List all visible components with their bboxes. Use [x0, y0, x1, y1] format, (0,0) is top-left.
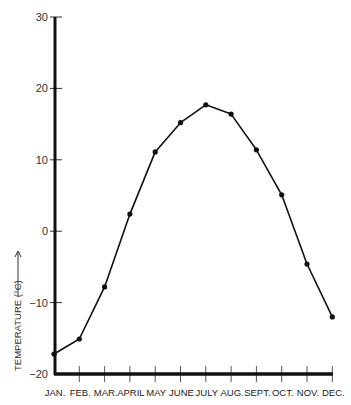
y-tick-label: −20	[29, 368, 48, 380]
y-tick-label: 0	[42, 225, 48, 237]
data-point	[254, 147, 259, 152]
y-tick-label: −10	[29, 297, 48, 309]
x-category-label: JULY	[196, 387, 219, 398]
data-point-markers	[51, 102, 335, 356]
y-tick-label: 30	[36, 11, 48, 23]
y-tick-label: 20	[36, 82, 48, 94]
x-category-label: APRIL	[117, 387, 144, 398]
data-point	[51, 351, 56, 356]
y-tick-label: 10	[36, 154, 48, 166]
data-point	[77, 336, 82, 341]
data-point	[229, 112, 234, 117]
data-point	[304, 261, 309, 266]
x-category-label: FEB.	[70, 387, 91, 398]
data-point	[330, 314, 335, 319]
x-category-label: MAR.	[94, 387, 118, 398]
x-category-label: SEPT.	[244, 387, 270, 398]
data-point	[127, 211, 132, 216]
data-point	[178, 120, 183, 125]
data-point	[203, 102, 208, 107]
x-axis-category-labels: JAN.FEB.MAR.APRILMAYJUNEJULYAUG.SEPT.OCT…	[45, 387, 345, 398]
x-category-label: NOV.	[297, 387, 319, 398]
temperature-series-line	[54, 105, 332, 354]
data-point	[153, 149, 158, 154]
data-point	[279, 192, 284, 197]
x-category-label: DEC.	[322, 387, 345, 398]
y-axis-tick-labels: −20−100102030	[29, 11, 48, 380]
x-category-label: JUNE	[169, 387, 194, 398]
temperature-line-chart: −20−100102030 JAN.FEB.MAR.APRILMAYJUNEJU…	[0, 0, 351, 405]
data-point	[102, 284, 107, 289]
x-category-label: OCT.	[272, 387, 294, 398]
x-category-label: AUG.	[220, 387, 243, 398]
x-category-label: JAN.	[45, 387, 66, 398]
x-category-label: MAY	[146, 387, 167, 398]
